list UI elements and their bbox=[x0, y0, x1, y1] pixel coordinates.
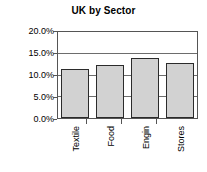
x-axis-tick-label: Textile bbox=[71, 126, 81, 152]
y-axis-tick-label: 5.0% bbox=[2, 92, 54, 102]
x-axis-tick-label: Food bbox=[106, 126, 116, 147]
y-axis: 20.0% 15.0% 10.0% 5.0% 0.0% bbox=[0, 31, 54, 119]
gridline bbox=[58, 53, 197, 54]
bar-chart: UK by Sector 20.0% 15.0% 10.0% 5.0% 0.0%… bbox=[0, 0, 207, 172]
x-axis-tick-mark bbox=[86, 119, 87, 124]
bar-engin bbox=[131, 58, 159, 118]
bar-textile bbox=[61, 69, 89, 118]
bar-stores bbox=[166, 63, 194, 118]
y-axis-tick-label: 15.0% bbox=[2, 48, 54, 58]
plot-area bbox=[57, 31, 198, 119]
y-axis-tick-label: 20.0% bbox=[2, 26, 54, 36]
chart-title: UK by Sector bbox=[0, 5, 207, 16]
x-axis-tick-label: Engin bbox=[141, 126, 151, 149]
x-axis-tick-label: Stores bbox=[176, 126, 186, 152]
y-axis-tick-mark bbox=[53, 119, 57, 120]
x-axis-tick-mark bbox=[156, 119, 157, 124]
y-axis-tick-label: 0.0% bbox=[2, 114, 54, 124]
x-axis-tick-mark bbox=[121, 119, 122, 124]
y-axis-tick-label: 10.0% bbox=[2, 70, 54, 80]
x-axis-label-slot: Engin bbox=[129, 126, 162, 170]
x-axis-label-slot: Textile bbox=[59, 126, 92, 170]
bar-food bbox=[96, 65, 124, 118]
x-axis-label-slot: Food bbox=[94, 126, 127, 170]
x-axis-label-slot: Stores bbox=[164, 126, 197, 170]
